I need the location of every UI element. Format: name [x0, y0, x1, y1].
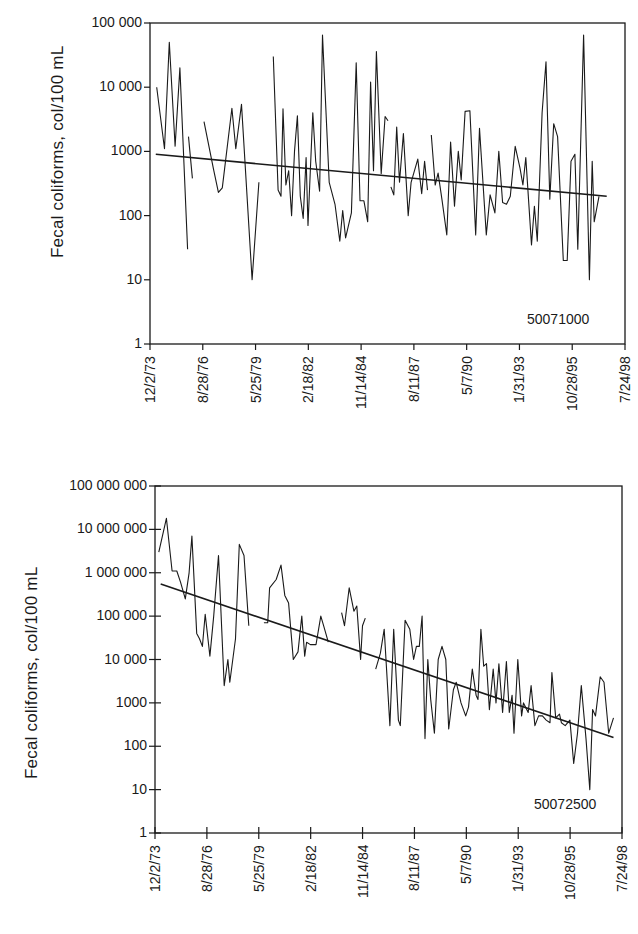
x-tick-label: 8/28/76: [195, 356, 211, 403]
plot-frame: [150, 23, 625, 344]
x-tick-label: 5/25/79: [248, 356, 264, 403]
station-label: 50072500: [534, 796, 596, 812]
x-tick-label: 1/31/93: [511, 356, 527, 403]
x-tick-label: 5/25/79: [251, 845, 267, 892]
plot-area: [0, 0, 638, 467]
x-tick-label: 11/14/84: [353, 356, 369, 409]
x-tick-label: 7/24/98: [617, 356, 633, 403]
x-tick-label: 8/11/87: [406, 356, 422, 402]
y-tick-label: 100: [2, 207, 142, 223]
x-tick-label: 2/18/82: [303, 845, 319, 892]
chart-station-50071000: Fecal coliforms, col/100 mL 50071000 110…: [0, 0, 638, 467]
data-series-line: [431, 35, 599, 280]
y-tick-label: 1: [7, 824, 147, 840]
data-series-line: [159, 518, 249, 685]
trend-line: [161, 584, 614, 737]
data-series-line: [376, 616, 614, 790]
x-tick-label: 12/2/73: [147, 845, 163, 892]
data-series-line: [204, 104, 259, 279]
x-tick-label: 1/31/93: [510, 845, 526, 892]
y-tick-label: 100: [7, 737, 147, 753]
y-tick-label: 10: [7, 781, 147, 797]
data-series-line: [391, 127, 428, 216]
y-tick-label: 1000: [7, 694, 147, 710]
plot-frame: [155, 486, 622, 833]
x-tick-label: 2/18/82: [300, 356, 316, 403]
y-tick-label: 100 000: [2, 14, 142, 30]
x-tick-label: 8/28/76: [199, 845, 215, 892]
data-series-line: [264, 565, 328, 659]
y-tick-label: 1000: [2, 142, 142, 158]
x-tick-label: 5/7/90: [459, 356, 475, 395]
y-tick-label: 10: [2, 271, 142, 287]
x-tick-label: 7/24/98: [614, 845, 630, 892]
x-tick-label: 12/2/73: [142, 356, 158, 403]
y-tick-label: 10 000 000: [7, 520, 147, 536]
x-tick-label: 10/28/95: [564, 357, 580, 412]
x-tick-label: 11/14/84: [355, 845, 371, 898]
y-tick-label: 10 000: [2, 78, 142, 94]
data-series-line: [273, 35, 388, 241]
x-tick-label: 8/11/87: [406, 845, 422, 891]
chart-station-50072500: Fecal coliforms, col/100 mL 50072500 110…: [0, 467, 638, 934]
y-tick-label: 100 000: [7, 607, 147, 623]
x-tick-label: 5/7/90: [458, 845, 474, 884]
y-tick-label: 10 000: [7, 651, 147, 667]
y-tick-label: 1 000 000: [7, 564, 147, 580]
y-tick-label: 1: [2, 335, 142, 351]
x-tick-label: 10/28/95: [562, 846, 578, 901]
y-tick-label: 100 000 000: [7, 477, 147, 493]
data-series-line: [157, 42, 188, 249]
station-label: 50071000: [527, 311, 589, 327]
